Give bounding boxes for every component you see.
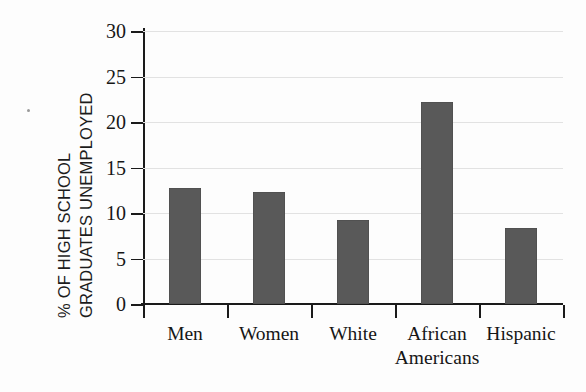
x-axis-label-women: Women [221,322,317,346]
y-tick-mark-20 [131,122,143,124]
y-tick-label-wrap-10: 10 [96,203,126,223]
y-tick-mark-25 [131,77,143,79]
gridline-10 [143,213,563,214]
y-tick-mark-10 [131,213,143,215]
x-label-text: Hispanic [486,323,555,344]
x-tick-mark-5 [563,305,565,318]
y-tick-label-5: 5 [96,249,126,269]
x-label-text: Women [239,323,299,344]
gridline-15 [143,168,563,169]
bar-men [169,188,201,304]
x-axis-label-white: White [305,322,401,346]
x-tick-mark-4 [479,305,481,318]
x-tick-mark-0 [143,305,145,318]
bar-white [337,220,369,304]
y-axis-title-line-1: % OF HIGH SCHOOL [55,153,74,318]
y-tick-label-0: 0 [96,294,126,314]
x-tick-mark-1 [227,305,229,318]
y-axis-title: % OF HIGH SCHOOL GRADUATES UNEMPLOYED [0,0,96,340]
bar-chart-figure: % OF HIGH SCHOOL GRADUATES UNEMPLOYED 05… [0,0,586,392]
x-tick-mark-2 [311,305,313,318]
y-tick-mark-0 [131,304,143,306]
gridline-25 [143,77,563,78]
y-tick-label-wrap-0: 0 [96,294,126,314]
y-tick-label-30: 30 [96,21,126,41]
y-axis-title-line-2: GRADUATES UNEMPLOYED [77,92,96,318]
y-tick-label-wrap-25: 25 [96,67,126,87]
y-tick-label-wrap-20: 20 [96,112,126,132]
y-tick-label-15: 15 [96,158,126,178]
gridline-30 [143,31,563,32]
x-tick-mark-3 [395,305,397,318]
plot-area [143,31,563,304]
y-tick-mark-15 [131,168,143,170]
bar-women [253,192,285,304]
x-axis-label-african-americans: AfricanAmericans [389,322,485,371]
y-tick-label-25: 25 [96,67,126,87]
x-label-text: Americans [389,346,485,370]
y-tick-label-wrap-5: 5 [96,249,126,269]
gridline-20 [143,122,563,123]
x-axis-label-men: Men [137,322,233,346]
bar-african-americans [421,102,453,304]
x-label-text: White [329,323,377,344]
y-tick-label-20: 20 [96,112,126,132]
gridline-0 [143,304,563,305]
x-label-text: African [407,323,467,344]
y-tick-label-wrap-30: 30 [96,21,126,41]
y-tick-mark-30 [131,31,143,33]
y-tick-label-wrap-15: 15 [96,158,126,178]
x-axis-label-hispanic: Hispanic [473,322,569,346]
bar-hispanic [505,228,537,304]
y-tick-label-10: 10 [96,203,126,223]
y-tick-mark-5 [131,259,143,261]
x-label-text: Men [167,323,203,344]
